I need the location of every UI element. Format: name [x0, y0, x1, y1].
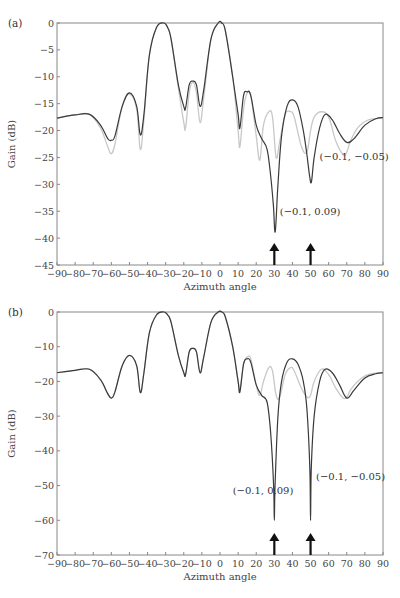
y-tick-label: 0: [48, 18, 54, 29]
x-tick-label: 50: [305, 268, 317, 279]
x-tick-label: −70: [83, 268, 103, 279]
x-tick-label: 90: [377, 268, 389, 279]
y-tick-label: −25: [34, 152, 54, 163]
x-tick-label: 20: [250, 558, 262, 569]
y-tick-label: −30: [34, 179, 54, 190]
x-tick-label: 30: [268, 558, 280, 569]
x-tick-label: −80: [65, 268, 85, 279]
x-tick-label: 0: [217, 558, 223, 569]
figure: (a)−90−80−70−60−50−40−30−20−100102030405…: [0, 0, 400, 598]
x-tick-label: −10: [192, 268, 212, 279]
null-arrow-icon: [306, 533, 316, 541]
y-tick-label: −10: [34, 71, 54, 82]
y-tick-label: −5: [40, 44, 54, 55]
x-tick-label: −20: [174, 268, 194, 279]
null-arrow-icon: [269, 533, 279, 541]
x-tick-label: 10: [232, 268, 244, 279]
x-tick-label: −10: [192, 558, 212, 569]
x-axis-label: Azimuth angle: [182, 281, 256, 292]
x-tick-label: −60: [101, 558, 121, 569]
x-tick-label: 90: [377, 558, 389, 569]
null-annotation: (−0.1, −0.05): [316, 471, 385, 482]
y-tick-label: −45: [34, 260, 54, 271]
x-tick-label: −50: [119, 558, 139, 569]
x-tick-label: −80: [65, 558, 85, 569]
null-arrow-icon: [269, 243, 279, 251]
y-tick-label: −20: [34, 125, 54, 136]
x-tick-label: 0: [217, 268, 223, 279]
series-line-original: [57, 21, 383, 160]
x-tick-label: 80: [359, 558, 371, 569]
y-tick-label: −30: [34, 411, 54, 422]
x-tick-label: 60: [323, 268, 335, 279]
x-tick-label: 70: [341, 268, 353, 279]
y-tick-label: −50: [34, 480, 54, 491]
y-tick-label: 0: [48, 307, 54, 318]
x-tick-label: −70: [83, 558, 103, 569]
x-tick-label: 10: [232, 558, 244, 569]
y-tick-label: −40: [34, 233, 54, 244]
panel-label: (b): [8, 306, 23, 318]
x-axis-label: Azimuth angle: [182, 571, 256, 582]
x-tick-label: 80: [359, 268, 371, 279]
series-line-modified: [57, 311, 383, 520]
chart-panel-a: (a)−90−80−70−60−50−40−30−20−100102030405…: [6, 17, 389, 292]
x-tick-label: 50: [305, 558, 317, 569]
y-tick-label: −70: [34, 550, 54, 561]
null-annotation: (−0.1, 0.09): [280, 206, 341, 217]
null-arrow-icon: [306, 243, 316, 251]
y-tick-label: −40: [34, 445, 54, 456]
x-tick-label: −50: [119, 268, 139, 279]
x-tick-label: −40: [138, 268, 158, 279]
x-tick-label: 30: [268, 268, 280, 279]
y-tick-label: −10: [34, 341, 54, 352]
y-tick-label: −15: [34, 98, 54, 109]
series-line-modified: [57, 21, 383, 232]
series-line-original: [57, 311, 383, 399]
plot-frame: [57, 23, 383, 265]
x-tick-label: 20: [250, 268, 262, 279]
x-tick-label: 40: [286, 558, 298, 569]
x-tick-label: −40: [138, 558, 158, 569]
x-tick-label: 40: [286, 268, 298, 279]
x-tick-label: 70: [341, 558, 353, 569]
null-annotation: (−0.1, 0.09): [233, 485, 294, 496]
x-tick-label: −60: [101, 268, 121, 279]
plot-frame: [57, 312, 383, 555]
x-tick-label: −20: [174, 558, 194, 569]
y-tick-label: −20: [34, 376, 54, 387]
y-tick-label: −35: [34, 206, 54, 217]
y-tick-label: −60: [34, 515, 54, 526]
chart-panel-b: (b)−90−80−70−60−50−40−30−20−100102030405…: [6, 306, 389, 582]
panel-label: (a): [8, 17, 22, 29]
y-axis-label: Gain (dB): [6, 409, 17, 457]
x-tick-label: −30: [156, 268, 176, 279]
x-tick-label: −30: [156, 558, 176, 569]
x-tick-label: 60: [323, 558, 335, 569]
null-annotation: (−0.1, −0.05): [320, 151, 389, 162]
y-axis-label: Gain (dB): [6, 120, 17, 168]
